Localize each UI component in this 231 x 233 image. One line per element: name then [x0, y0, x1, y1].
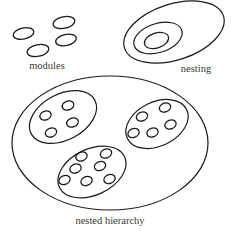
cluster-top-left — [20, 80, 105, 154]
module-ellipse — [52, 15, 76, 31]
cluster-dot — [44, 126, 58, 138]
modules-group: modules — [12, 15, 77, 71]
cluster-dot — [164, 118, 178, 130]
cluster-dot — [99, 147, 113, 159]
cluster-dot — [158, 101, 172, 113]
cluster-ellipse — [50, 136, 135, 208]
cluster-ellipse — [20, 80, 105, 154]
cluster-dot — [39, 109, 53, 121]
diagram-figure: modules nesting — [0, 0, 231, 233]
cluster-dot — [93, 160, 107, 172]
cluster-dot — [103, 173, 117, 185]
nesting-middle-ellipse — [130, 16, 187, 59]
cluster-dot — [80, 175, 94, 187]
nesting-group: nesting — [116, 0, 231, 75]
cluster-bottom — [50, 136, 135, 208]
modules-label: modules — [29, 60, 65, 71]
module-ellipse — [12, 26, 35, 41]
nesting-inner-ellipse — [142, 30, 170, 52]
cluster-dot — [58, 174, 72, 186]
module-ellipse — [55, 32, 78, 47]
nested-hierarchy-diagram: modules nesting — [0, 0, 231, 233]
nesting-label: nesting — [181, 63, 212, 74]
cluster-dot — [146, 126, 160, 138]
nesting-outer-ellipse — [116, 0, 231, 75]
cluster-dot — [127, 127, 141, 139]
module-ellipse — [26, 43, 50, 59]
nested-hierarchy-label: nested hierarchy — [75, 215, 145, 226]
cluster-dot — [61, 99, 75, 112]
hierarchy-outer-ellipse — [12, 76, 208, 210]
cluster-dot — [69, 162, 83, 174]
cluster-dot — [135, 110, 149, 122]
nested-hierarchy-group: nested hierarchy — [12, 76, 208, 226]
cluster-dot — [75, 150, 89, 162]
cluster-dot — [65, 116, 79, 129]
